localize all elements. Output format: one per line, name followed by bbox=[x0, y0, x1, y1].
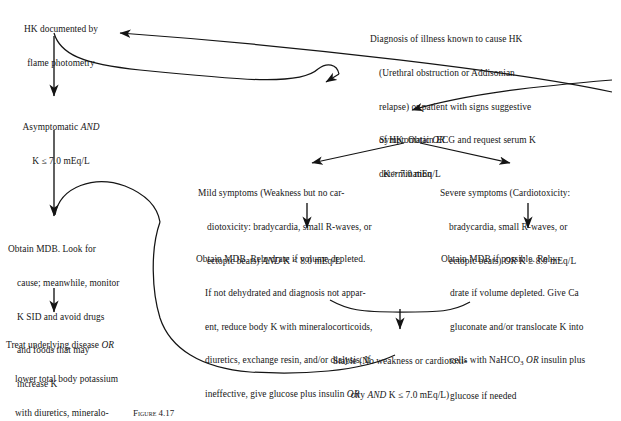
node-asymptomatic: Asymptomatic AND K ≤ 7.0 mEq/L bbox=[2, 100, 120, 190]
connector-hook-arrowhead bbox=[318, 65, 339, 74]
node-hk-documented: HK documented by flame photometry bbox=[6, 2, 116, 92]
obtain-mdb-right-line-1: Obtain MDB if possible. Rehy- bbox=[441, 254, 621, 265]
symptomatic-line-1: Symptomatic OR bbox=[352, 135, 472, 146]
diagnosis-line-2: (Urethral obstruction or Addisonian bbox=[370, 68, 618, 79]
symptomatic-text: Symptomatic bbox=[379, 135, 432, 145]
stable-line-2: city AND K ≤ 7.0 mEq/L) bbox=[297, 390, 503, 401]
mild-line-1: Mild symptoms (Weakness but no car- bbox=[198, 188, 426, 199]
asymptomatic-line-2: K ≤ 7.0 mEq/L bbox=[2, 156, 120, 167]
stable-line-2-a: city bbox=[351, 390, 368, 400]
symptomatic-or-italic: OR bbox=[432, 135, 445, 145]
treat-underlying-line-1: Treat underlying disease OR bbox=[6, 340, 176, 351]
obtain-mdb-left-line-2: cause; meanwhile, monitor bbox=[8, 278, 158, 289]
stable-line-1: Stable (No weakness or cardiotoxi- bbox=[297, 356, 503, 367]
stable-and-italic: AND bbox=[367, 390, 386, 400]
obtain-mdb-mid-line-2: If not dehydrated and diagnosis not appa… bbox=[196, 288, 428, 299]
severe-line-1: Severe symptoms (Cardiotoxicity: bbox=[440, 188, 620, 199]
hk-documented-line-2: flame photometry bbox=[6, 58, 116, 69]
diagnosis-line-1: Diagnosis of illness known to cause HK bbox=[370, 34, 618, 45]
treat-underlying-or-italic: OR bbox=[101, 340, 114, 350]
node-treat-underlying: Treat underlying disease OR lower total … bbox=[6, 318, 176, 421]
connector-hook-tip bbox=[326, 74, 339, 82]
flowchart-figure: HK documented by flame photometry Diagno… bbox=[0, 0, 621, 421]
asymptomatic-line-1: Asymptomatic AND bbox=[2, 122, 120, 133]
asymptomatic-text: Asymptomatic bbox=[22, 122, 80, 132]
hk-documented-line-1: HK documented by bbox=[6, 24, 116, 35]
obtain-mdb-right-line-2: drate if volume depleted. Give Ca bbox=[441, 288, 621, 299]
obtain-mdb-right-or-italic: OR bbox=[524, 355, 539, 365]
diagnosis-line-3: relapse) or patient with signs suggestiv… bbox=[370, 102, 618, 113]
treat-underlying-line-2: lower total body potassium bbox=[6, 374, 176, 385]
obtain-mdb-left-line-1: Obtain MDB. Look for bbox=[8, 244, 158, 255]
figure-caption: Figure 4.17 bbox=[133, 408, 174, 418]
obtain-mdb-right-line-3: gluconate and/or translocate K into bbox=[441, 322, 621, 333]
stable-line-2-b: K ≤ 7.0 mEq/L) bbox=[386, 390, 449, 400]
treat-underlying-line-1-a: Treat underlying disease bbox=[6, 340, 101, 350]
asymptomatic-and-italic: AND bbox=[81, 122, 100, 132]
node-stable: Stable (No weakness or cardiotoxi- city … bbox=[297, 334, 503, 421]
obtain-mdb-mid-line-1: Obtain MDB. Rehydrate if volume depleted… bbox=[196, 254, 428, 265]
obtain-mdb-mid-line-3: ent, reduce body K with mineralocorticoi… bbox=[196, 322, 428, 333]
obtain-mdb-right-line-4-b: insulin plus bbox=[539, 355, 586, 365]
